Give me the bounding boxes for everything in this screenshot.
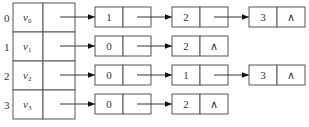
adjvex-value: 1: [183, 69, 189, 81]
edge-lists: 123∧02∧013∧02∧: [60, 7, 305, 114]
edge-list: 013∧: [60, 65, 305, 85]
edge-node: 0: [95, 36, 172, 56]
vertex-name-subscript: 1: [28, 46, 32, 54]
edge-node: 2∧: [172, 94, 228, 114]
adjvex-value: 0: [106, 69, 112, 81]
adjvex-value: 1: [106, 11, 112, 23]
edge-node: 1: [172, 65, 249, 85]
vertex-index: 3: [4, 99, 10, 111]
edge-node: 0: [95, 94, 172, 114]
vertex-name-subscript: 2: [28, 75, 32, 83]
adjvex-value: 3: [260, 11, 266, 23]
vertex-head-table: 0v01v12v23v3: [4, 3, 75, 119]
adjvex-value: 2: [183, 11, 189, 23]
edge-node: 3∧: [249, 7, 305, 27]
null-pointer-symbol: ∧: [287, 11, 295, 23]
vertex-name-subscript: 0: [28, 17, 32, 25]
null-pointer-symbol: ∧: [210, 40, 218, 52]
adjvex-value: 0: [106, 98, 112, 110]
null-pointer-symbol: ∧: [210, 98, 218, 110]
adjacency-list-diagram: 0v01v12v23v3 123∧02∧013∧02∧: [0, 0, 309, 127]
vertex-index: 2: [4, 70, 10, 82]
adjvex-value: 0: [106, 40, 112, 52]
vertex-name-subscript: 3: [28, 104, 32, 112]
edge-node: 3∧: [249, 65, 305, 85]
edge-list: 123∧: [60, 7, 305, 27]
adjvex-value: 3: [260, 69, 266, 81]
edge-node: 2: [172, 7, 249, 27]
vertex-index: 0: [4, 12, 10, 24]
edge-node: 2∧: [172, 36, 228, 56]
edge-node: 1: [95, 7, 172, 27]
adjvex-value: 2: [183, 40, 189, 52]
adjvex-value: 2: [183, 98, 189, 110]
edge-node: 0: [95, 65, 172, 85]
edge-list: 02∧: [60, 94, 228, 114]
edge-list: 02∧: [60, 36, 228, 56]
null-pointer-symbol: ∧: [287, 69, 295, 81]
vertex-index: 1: [4, 41, 10, 53]
